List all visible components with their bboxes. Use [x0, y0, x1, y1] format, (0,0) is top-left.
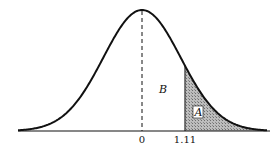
tick-label-zero: 0	[139, 134, 145, 145]
tick-label-cutoff: 1.11	[174, 134, 196, 145]
region-label-a: A	[194, 106, 203, 119]
normal-curve-diagram: 0 1.11 B A	[0, 0, 278, 149]
region-label-b: B	[158, 83, 167, 96]
tail-area-shading	[185, 66, 267, 131]
